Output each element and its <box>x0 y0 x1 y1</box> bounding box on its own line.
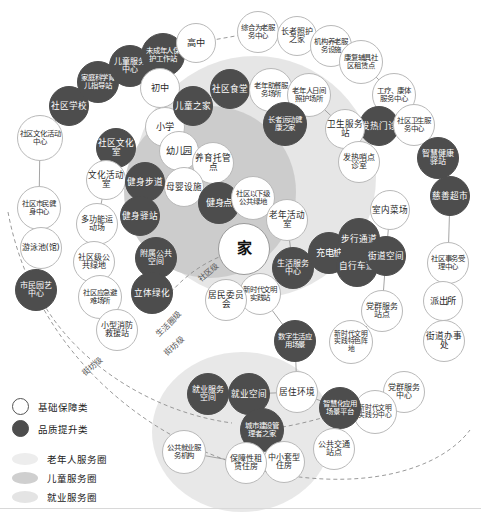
facility-node-label: 社区事务受理中心 <box>429 255 467 270</box>
legend-label-basic: 基础保障类 <box>38 400 88 414</box>
facility-node-n54[interactable]: 室内菜场 <box>370 190 410 230</box>
facility-node-label: 智慧化应用场景平台 <box>321 400 359 415</box>
diagram-canvas: 社区级 生活圈级 街坊级 街坊级 社区文化活动中心社区学校家庭科学育儿指导站儿童… <box>0 0 481 520</box>
facility-node-n56[interactable]: 社区事务受理中心 <box>427 242 469 284</box>
ellipse-job-icon <box>12 491 38 503</box>
facility-node-label: 家 <box>237 241 252 257</box>
facility-node-n49[interactable]: 新时代文明实践特色阵地 <box>329 320 373 364</box>
facility-node-label: 老年人日间照护场所 <box>289 87 329 102</box>
facility-node-label: 室内菜场 <box>372 206 407 215</box>
facility-node-label: 综合为老服务中心 <box>239 24 277 39</box>
facility-node-n67[interactable]: 中小套型住房 <box>263 441 305 483</box>
facility-node-n09[interactable]: 儿童之家 <box>173 86 213 126</box>
facility-node-n44[interactable]: 家 <box>218 223 270 275</box>
facility-node-n48[interactable]: 数字生活应用场景 <box>274 320 316 362</box>
legend-item-quality: 品质提升类 <box>12 420 162 437</box>
facility-node-label: 幼儿园 <box>166 146 192 156</box>
facility-node-label: 游泳池(馆) <box>22 244 59 252</box>
ellipse-elder-icon <box>12 453 38 465</box>
facility-node-n63[interactable]: 居住环境 <box>276 371 318 413</box>
facility-node-label: 养育托管点 <box>194 154 232 172</box>
facility-node-n36[interactable]: 小型消防救援站 <box>96 309 138 351</box>
facility-node-label: 工疗、康体服务中心 <box>374 87 414 102</box>
facility-node-label: 社区市民健身中心 <box>19 200 59 215</box>
facility-node-label: 健身步道 <box>127 178 162 187</box>
facility-node-label: 儿童之家 <box>175 102 210 111</box>
facility-node-label: 中小套型住房 <box>265 454 303 471</box>
facility-node-n32[interactable]: 市民园艺中心 <box>15 269 57 311</box>
facility-node-label: 就业服务空间 <box>189 386 227 403</box>
legend-item-child-circle: 儿童服务圈 <box>12 471 162 485</box>
facility-node-label: 初中 <box>151 83 169 93</box>
facility-node-label: 新时代文明实践分中心 <box>355 405 395 419</box>
facility-node-label: 文化活动室 <box>88 171 124 189</box>
legend-label-quality: 品质提升类 <box>38 422 88 436</box>
legend-label-child-circle: 儿童服务圈 <box>47 471 97 485</box>
facility-node-n57[interactable]: 派出所 <box>423 281 463 321</box>
facility-node-n53[interactable]: 街道空间 <box>366 236 406 276</box>
facility-node-label: 老年助餐服务场所 <box>251 82 291 97</box>
facility-node-n68[interactable]: 保障性租赁住房 <box>225 442 267 484</box>
legend-item-basic: 基础保障类 <box>12 398 162 415</box>
facility-node-n55[interactable]: 党群服务站点 <box>361 290 403 332</box>
facility-node-n58[interactable]: 街道办事处 <box>423 320 465 362</box>
facility-node-label: 多功能运动场 <box>78 216 116 233</box>
facility-node-n62[interactable]: 公共交通站点 <box>313 428 355 470</box>
facility-node-label: 社区应急避难场所 <box>80 289 120 304</box>
facility-node-label: 健身驿站 <box>122 212 157 221</box>
facility-node-n11[interactable]: 综合为老服务中心 <box>237 11 279 53</box>
facility-node-label: 居住环境 <box>279 388 314 397</box>
facility-node-n65[interactable]: 就业服务空间 <box>187 373 229 415</box>
facility-node-n61[interactable]: 智慧化应用场景平台 <box>319 387 361 429</box>
facility-node-n43[interactable]: 老年活动室 <box>266 199 308 241</box>
facility-node-label: 数字生活应用场景 <box>276 333 314 348</box>
facility-node-label: 公共交通站点 <box>315 441 353 458</box>
circle-outline-icon <box>12 398 29 415</box>
facility-node-n69[interactable]: 公共就业服务机构 <box>162 430 206 474</box>
facility-node-n38[interactable]: 健身驿站 <box>120 196 160 236</box>
facility-node-n47[interactable]: 居民委员会 <box>205 279 247 321</box>
facility-node-label: 长者运动健康之家 <box>265 116 305 131</box>
facility-node-n14[interactable]: 康复辅具社区租赁点 <box>339 40 383 84</box>
facility-node-label: 卫生服务站 <box>327 120 363 138</box>
facility-node-label: 党群服务站点 <box>363 303 401 320</box>
facility-node-n30[interactable]: 社区市民健身中心 <box>17 186 61 230</box>
facility-node-n17[interactable]: 长者运动健康之家 <box>263 102 307 146</box>
facility-node-label: 市民园艺中心 <box>17 282 55 299</box>
facility-node-label: 社区以下级公共绿地 <box>233 190 273 205</box>
facility-node-label: 社区级公共绿地 <box>75 254 113 271</box>
facility-node-label: 生活服务中心 <box>274 260 312 277</box>
facility-node-label: 公共就业服务机构 <box>164 444 204 459</box>
facility-node-label: 街道空间 <box>368 252 403 261</box>
facility-node-label: 高中 <box>187 38 205 48</box>
circle-filled-icon <box>12 420 29 437</box>
legend-label-job-circle: 就业服务圈 <box>47 490 97 504</box>
facility-node-n40[interactable]: 立体绿化 <box>131 272 173 314</box>
facility-node-label: 社区卫生服务中心 <box>395 117 433 132</box>
facility-node-label: 社区文化活动中心 <box>19 130 61 145</box>
facility-node-label: 立体绿化 <box>134 289 169 298</box>
facility-node-label: 小学 <box>156 122 174 132</box>
facility-node-label: 城市建设管理者之家 <box>242 422 282 437</box>
facility-node-n24[interactable]: 慈善超市 <box>430 176 470 216</box>
facility-node-n06[interactable]: 高中 <box>176 23 216 63</box>
facility-node-n31[interactable]: 游泳池(馆) <box>20 227 62 269</box>
facility-node-label: 母婴设施 <box>166 183 201 192</box>
facility-node-label: 保障性租赁住房 <box>227 455 265 472</box>
facility-node-n33[interactable]: 多功能运动场 <box>76 203 118 245</box>
footer-divider <box>0 508 481 509</box>
facility-node-label: 健身点 <box>206 198 232 208</box>
legend: 基础保障类 品质提升类 老年人服务圈 儿童服务圈 就业服务圈 <box>12 398 162 509</box>
facility-node-label: 社区学校 <box>51 102 86 111</box>
facility-node-label: 派出所 <box>430 296 456 306</box>
facility-node-n23[interactable]: 智慧健康驿站 <box>417 137 459 179</box>
facility-node-n22[interactable]: 发热哨点诊室 <box>338 141 380 183</box>
facility-node-label: 康复辅具社区租赁点 <box>341 54 381 69</box>
facility-node-label: 智慧健康驿站 <box>419 150 457 167</box>
facility-node-label: 新时代文明实践特色阵地 <box>331 331 371 352</box>
facility-node-label: 小型消防救援站 <box>98 322 136 339</box>
facility-node-label: 发热门诊 <box>361 122 396 131</box>
facility-node-n29[interactable]: 文化活动室 <box>86 160 126 200</box>
ellipse-child-icon <box>12 472 38 484</box>
facility-node-n10[interactable]: 社区食堂 <box>210 69 250 109</box>
